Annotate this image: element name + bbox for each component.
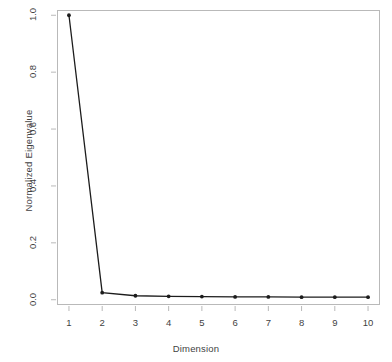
data-point: [100, 291, 104, 295]
x-tick-label: 10: [357, 317, 379, 328]
data-point: [266, 295, 270, 299]
data-point: [300, 295, 304, 299]
data-point: [333, 295, 337, 299]
eigenvalue-series-line: [69, 15, 368, 297]
x-tick-label: 1: [58, 317, 80, 328]
y-axis-ticks: [51, 15, 56, 299]
x-tick-label: 6: [224, 317, 246, 328]
plot-canvas: [0, 0, 392, 362]
data-point: [67, 13, 71, 17]
x-tick-label: 3: [124, 317, 146, 328]
x-axis-ticks: [69, 306, 368, 311]
data-point: [167, 294, 171, 298]
y-axis-title: Normalized Eigenvalue: [23, 81, 34, 241]
data-point: [233, 295, 237, 299]
x-tick-label: 7: [257, 317, 279, 328]
scree-plot-figure: 12345678910 0.00.20.40.60.81.0 Dimension…: [0, 0, 392, 362]
data-point: [134, 294, 138, 298]
x-axis-title: Dimension: [0, 343, 392, 354]
eigenvalue-series-points: [67, 13, 370, 299]
y-tick-label: 0.0: [27, 286, 38, 312]
x-tick-label: 9: [324, 317, 346, 328]
x-tick-label: 4: [158, 317, 180, 328]
y-tick-label: 1.0: [27, 2, 38, 28]
x-tick-label: 5: [191, 317, 213, 328]
x-tick-label: 2: [91, 317, 113, 328]
data-point: [366, 295, 370, 299]
data-point: [200, 295, 204, 299]
x-tick-label: 8: [291, 317, 313, 328]
